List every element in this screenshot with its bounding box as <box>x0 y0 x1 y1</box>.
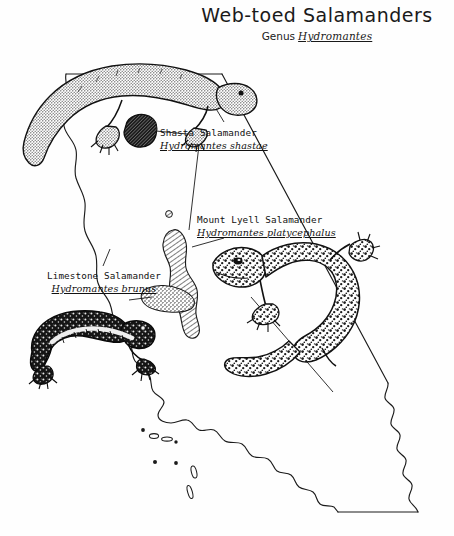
salamander-illustration-limestone <box>29 311 159 389</box>
illustration-plate: Web-toed Salamanders GenusHydromantes Sh… <box>0 0 454 536</box>
species-common-name: Limestone Salamander <box>47 269 161 282</box>
species-label-limestone: Limestone Salamander Hydromantes brunus <box>47 269 161 295</box>
species-scientific-name: Hydromantes brunus <box>47 282 161 295</box>
species-scientific-name: Hydromantes shastae <box>160 139 268 152</box>
species-label-mount-lyell: Mount Lyell Salamander Hydromantes platy… <box>197 213 336 239</box>
genus-name: Hydromantes <box>295 30 372 42</box>
species-common-name: Mount Lyell Salamander <box>197 213 336 226</box>
species-scientific-name: Hydromantes platycephalus <box>197 226 336 239</box>
salamander-art-layer <box>0 0 454 536</box>
title-block: Web-toed Salamanders GenusHydromantes <box>192 4 442 42</box>
salamander-illustration-mount-lyell <box>213 232 380 376</box>
species-common-name: Shasta Salamander <box>160 126 268 139</box>
genus-prefix: Genus <box>262 30 295 42</box>
genus-subtitle: GenusHydromantes <box>192 30 442 42</box>
page-title: Web-toed Salamanders <box>192 4 442 26</box>
species-label-shasta: Shasta Salamander Hydromantes shastae <box>160 126 268 152</box>
